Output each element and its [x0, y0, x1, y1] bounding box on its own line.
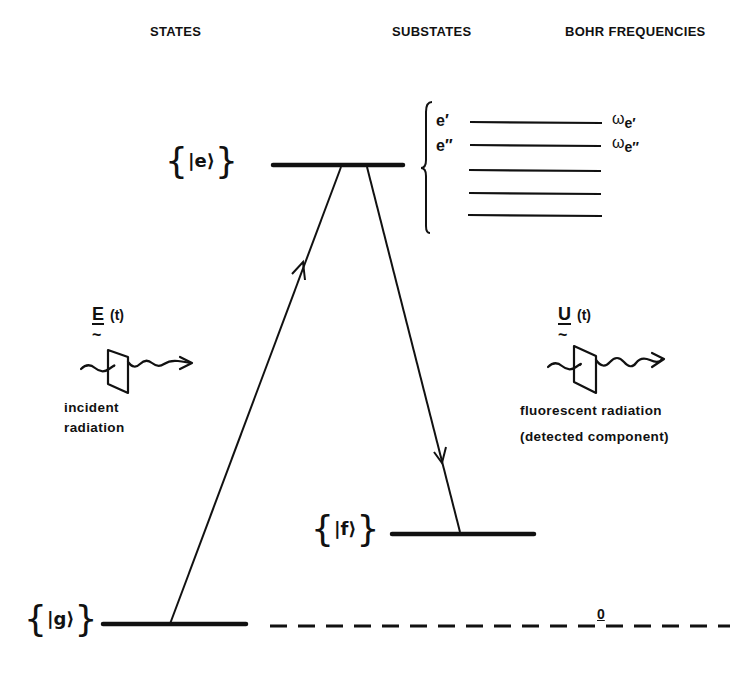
fluorescent-caption-line1: fluorescent radiation [520, 398, 669, 424]
incident-caption-line2: radiation [64, 418, 125, 438]
incident-field-label: E(t) ~ [92, 304, 124, 325]
incident-caption: incident radiation [64, 398, 125, 438]
substate-line [470, 122, 602, 123]
incident-caption-line1: incident [64, 398, 125, 418]
substate-label-e-prime: e′ [436, 112, 449, 130]
substate-line [469, 170, 601, 171]
ground-ket: |g⟩ [47, 608, 75, 629]
left-brace: { [24, 598, 47, 639]
fluorescent-field-label: U(t) ~ [558, 304, 591, 325]
left-brace: { [311, 508, 334, 549]
fluorescent-field-arg: (t) [577, 307, 591, 323]
fluorescent-caption: fluorescent radiation (detected componen… [520, 398, 669, 450]
omega-symbol: ω [612, 110, 625, 127]
right-brace: } [357, 508, 380, 549]
incident-radiation-icon [81, 350, 192, 393]
state-label-final: {|f⟩} [311, 508, 379, 549]
final-ket: |f⟩ [334, 518, 357, 539]
omega-subscript: e′ [625, 115, 636, 131]
omega-symbol: ω [612, 134, 625, 151]
right-brace: } [215, 140, 238, 181]
bohr-frequency-e-prime: ωe′ [612, 110, 636, 128]
substate-line [470, 145, 601, 146]
absorption-arrow-line [170, 167, 341, 624]
fluorescent-field-symbol: U [558, 304, 571, 324]
substate-line [469, 193, 601, 194]
bohr-frequency-e-double-prime: ωe″ [612, 134, 639, 152]
left-brace: { [165, 140, 188, 181]
state-label-ground: {|g⟩} [24, 598, 98, 639]
fluorescent-caption-line2: (detected component) [520, 424, 669, 450]
substate-label-e-double-prime: e″ [436, 137, 453, 155]
substates-brace-icon [421, 102, 432, 233]
emission-arrow-line [367, 167, 460, 532]
incident-field-arg: (t) [110, 307, 124, 323]
fluorescent-radiation-icon [548, 346, 664, 393]
tilde-icon: ~ [558, 326, 567, 344]
energy-level-diagram [0, 0, 749, 686]
right-brace: } [75, 598, 98, 639]
zero-frequency-label: 0 [597, 606, 605, 622]
omega-subscript: e″ [625, 139, 640, 155]
tilde-icon: ~ [92, 326, 101, 344]
absorption-arrowhead-icon [292, 262, 305, 280]
substate-line [468, 215, 602, 216]
excited-ket: |e⟩ [188, 150, 215, 171]
incident-field-symbol: E [92, 304, 104, 324]
state-label-excited: {|e⟩} [165, 140, 238, 181]
